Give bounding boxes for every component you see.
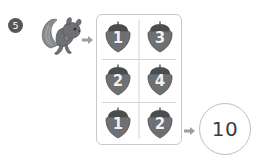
grid-cell: 1 xyxy=(97,101,139,144)
answer-circle[interactable]: 10 xyxy=(199,103,251,155)
acorn-number: 2 xyxy=(103,71,133,89)
answer-value: 10 xyxy=(212,117,238,141)
acorn-icon: 4 xyxy=(145,64,175,96)
grid-cell: 2 xyxy=(97,58,139,101)
grid-cell: 2 xyxy=(139,101,181,144)
acorn-number: 1 xyxy=(103,28,133,46)
grid-cell: 3 xyxy=(139,15,181,58)
acorn-icon: 3 xyxy=(145,21,175,53)
worksheet-problem: 5 xyxy=(0,0,262,158)
acorn-icon: 1 xyxy=(103,107,133,139)
acorn-icon: 1 xyxy=(103,21,133,53)
grid-cell: 1 xyxy=(97,15,139,58)
acorn-number: 4 xyxy=(145,71,175,89)
right-arrow-icon xyxy=(184,122,195,132)
grid-cell: 4 xyxy=(139,58,181,101)
question-number-badge: 5 xyxy=(8,18,23,33)
acorn-grid: 1 3 xyxy=(96,14,182,145)
acorn-icon: 2 xyxy=(145,107,175,139)
acorn-number: 3 xyxy=(145,28,175,46)
squirrel-icon xyxy=(38,14,82,56)
right-arrow-icon xyxy=(82,31,93,41)
acorn-icon: 2 xyxy=(103,64,133,96)
acorn-number: 1 xyxy=(103,114,133,132)
acorn-number: 2 xyxy=(145,114,175,132)
